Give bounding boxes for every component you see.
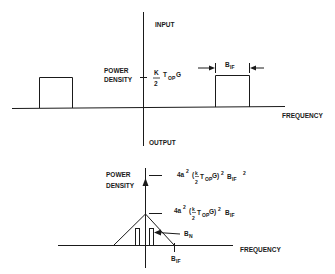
svg-text:IF: IF <box>232 176 236 182</box>
level-numerator: K <box>154 69 159 76</box>
svg-text:2: 2 <box>183 204 186 210</box>
svg-text:G): G) <box>212 172 219 180</box>
level-T: T <box>163 71 167 78</box>
bn-box-left <box>136 229 140 246</box>
bn-arrowhead-icon <box>154 230 161 236</box>
output-label: OUTPUT <box>149 139 176 146</box>
bottom-frequency-label: FREQUENCY <box>240 246 281 254</box>
svg-text:4a: 4a <box>174 207 182 214</box>
top-panel <box>12 12 285 146</box>
bif-left-arrowhead-icon <box>209 66 215 71</box>
bottom-density-label: DENSITY <box>106 182 135 189</box>
svg-text:2: 2 <box>195 179 198 185</box>
svg-text:T: T <box>197 209 201 216</box>
bif-sub: IF <box>230 64 234 70</box>
svg-text:4a: 4a <box>177 171 185 178</box>
input-label: INPUT <box>155 21 175 28</box>
svg-text:T: T <box>200 173 204 180</box>
top-density-label: DENSITY <box>104 76 133 83</box>
bn-box-right <box>150 229 154 246</box>
top-power-label: POWER <box>104 67 129 74</box>
left-band-box <box>40 78 73 109</box>
bn-sub: N <box>189 233 193 239</box>
svg-text:2: 2 <box>243 170 246 176</box>
bn-leader <box>158 233 180 235</box>
level-sub: OP <box>168 75 176 81</box>
bandwidth-triangle <box>114 214 174 245</box>
level-G: G <box>176 71 181 78</box>
bif-bottom-sub: IF <box>176 258 180 264</box>
upper-level-expression: 4a 2 ( k 2 T OP G) 2 B IF 2 <box>177 168 246 185</box>
svg-text:G): G) <box>209 208 216 216</box>
svg-text:k: k <box>195 170 198 176</box>
right-band-box <box>216 76 250 108</box>
svg-text:2: 2 <box>218 206 221 212</box>
svg-text:k: k <box>192 206 195 212</box>
bottom-power-label: POWER <box>106 171 131 178</box>
svg-text:2: 2 <box>186 168 189 174</box>
spectrum-diagram: INPUT OUTPUT POWER DENSITY FREQUENCY K 2… <box>0 0 335 274</box>
top-frequency-label: FREQUENCY <box>282 112 323 120</box>
lower-level-expression: 4a 2 ( k 2 T OP G) 2 B IF <box>174 204 234 221</box>
top-horizontal-axis <box>12 107 285 109</box>
svg-text:IF: IF <box>230 212 234 218</box>
svg-text:2: 2 <box>221 170 224 176</box>
power-axis-arrowhead-icon <box>143 178 149 186</box>
level-denominator: 2 <box>154 80 158 87</box>
svg-text:2: 2 <box>192 215 195 221</box>
bif-right-arrowhead-icon <box>250 66 256 71</box>
